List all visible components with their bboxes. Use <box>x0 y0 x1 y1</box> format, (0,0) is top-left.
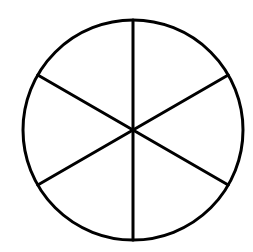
divided-circle-diagram <box>0 0 253 252</box>
